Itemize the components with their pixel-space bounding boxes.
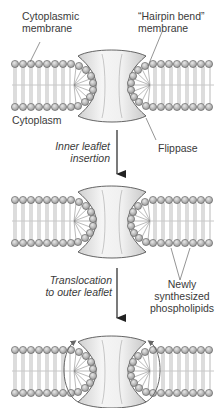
label-cytoplasm: Cytoplasm <box>12 114 62 126</box>
panel-initial-state <box>11 50 214 122</box>
flippase-diagram <box>0 0 224 408</box>
label-cytoplasmic-membrane: Cytoplasmic membrane <box>22 10 79 34</box>
label-line: membrane <box>138 22 205 34</box>
label-line: Cytoplasmic <box>22 10 79 22</box>
label-line: synthesized <box>142 290 222 302</box>
label-newly-synthesized-phospholipids: Newly synthesized phospholipids <box>142 278 222 314</box>
label-line: “Hairpin bend” <box>138 10 205 22</box>
panel-inner-leaflet-inserted <box>11 186 214 258</box>
label-hairpin-bend-membrane: “Hairpin bend” membrane <box>138 10 205 34</box>
pointer-newly-2 <box>180 248 190 280</box>
label-line: to outer leaflet <box>20 286 112 298</box>
label-line: Newly <box>142 278 222 290</box>
panel-translocated <box>11 336 214 408</box>
label-line: phospholipids <box>142 302 222 314</box>
pointer-flippase <box>146 118 156 140</box>
label-line: membrane <box>22 22 79 34</box>
label-line: insertion <box>30 152 110 164</box>
pointer-newly-1 <box>171 248 180 280</box>
label-inner-leaflet-insertion: Inner leaflet insertion <box>30 140 110 164</box>
label-line: Translocation <box>20 274 112 286</box>
pointer-cytoplasmic-membrane <box>30 42 40 62</box>
label-line: Inner leaflet <box>30 140 110 152</box>
label-flippase: Flippase <box>158 142 198 154</box>
label-translocation: Translocation to outer leaflet <box>20 274 112 298</box>
